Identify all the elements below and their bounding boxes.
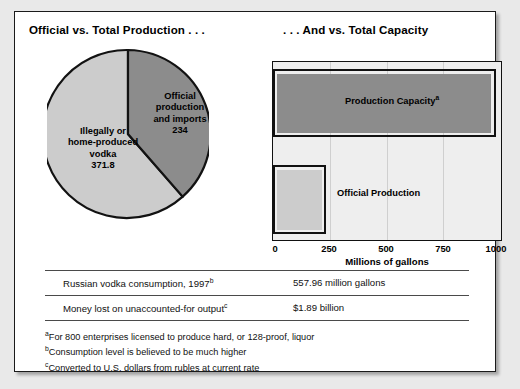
pie-chart: Illegally or home-produced vodka 371.8 O…	[47, 48, 209, 220]
bar-chart-plot-area: Production Capacitya Official Production	[272, 61, 502, 241]
summary-table: Russian vodka consumption, 1997b 557.96 …	[45, 270, 469, 321]
footnote-b-text: Consumption level is believed to be much…	[49, 347, 247, 357]
pie-label-official-line1: Official	[143, 91, 217, 102]
footnote-b: bConsumption level is believed to be muc…	[45, 343, 475, 358]
pie-label-illegal: Illegally or home-produced vodka 371.8	[51, 126, 155, 172]
footnote-mark-c: c	[224, 302, 227, 309]
bar-official-production	[273, 165, 327, 234]
footnote-c-text: Converted to U.S. dollars from rubles at…	[48, 363, 259, 373]
footnote-mark-a: a	[435, 94, 439, 101]
table-row-label-text: Money lost on unaccounted-for output	[63, 303, 224, 314]
footnote-c: cConverted to U.S. dollars from rubles a…	[45, 359, 475, 374]
pie-label-official-line2: production	[143, 102, 217, 113]
x-tick-1000: 1000	[486, 243, 507, 254]
pie-label-official: Official production and imports 234	[143, 91, 217, 137]
pie-value-illegal: 371.8	[51, 160, 155, 171]
table-row-label-text: Russian vodka consumption, 1997	[63, 278, 210, 289]
bar-official-production-fill	[277, 170, 322, 230]
bar-label-official-production: Official Production	[337, 188, 420, 198]
pie-value-official: 234	[143, 125, 217, 136]
x-tick-0: 0	[272, 243, 277, 254]
pie-label-illegal-line1: Illegally or	[51, 126, 155, 137]
table-row-value: $1.89 billion	[293, 302, 344, 313]
pie-chart-title: Official vs. Total Production . . .	[29, 23, 205, 36]
table-row-label: Money lost on unaccounted-for outputc	[63, 302, 227, 314]
pie-label-illegal-line3: vodka	[51, 149, 155, 160]
bar-chart-title: . . . And vs. Total Capacity	[283, 23, 428, 36]
table-row-value: 557.96 million gallons	[293, 277, 385, 288]
x-tick-750: 750	[435, 243, 451, 254]
table-row: Money lost on unaccounted-for outputc $1…	[45, 295, 469, 321]
footnote-a: aFor 800 enterprises licensed to produce…	[45, 328, 475, 343]
footnote-a-text: For 800 enterprises licensed to produce …	[49, 332, 315, 342]
footnote-mark-b: b	[210, 277, 214, 284]
bar-label-production-capacity: Production Capacitya	[345, 94, 439, 106]
figure-panel: Official vs. Total Production . . . . . …	[14, 11, 496, 372]
bar-chart-x-axis-ticks: 0 250 500 750 1000	[272, 243, 502, 256]
bar-chart-x-axis-label: Millions of gallons	[272, 256, 502, 267]
bar-label-production-capacity-text: Production Capacity	[345, 96, 435, 106]
x-tick-500: 500	[378, 243, 394, 254]
x-tick-250: 250	[321, 243, 337, 254]
figure-root: Official vs. Total Production . . . . . …	[0, 0, 520, 389]
table-row: Russian vodka consumption, 1997b 557.96 …	[45, 270, 469, 295]
pie-label-illegal-line2: home-produced	[51, 137, 155, 148]
pie-label-official-line3: and imports	[143, 114, 217, 125]
table-row-label: Russian vodka consumption, 1997b	[63, 277, 213, 289]
footnotes: aFor 800 enterprises licensed to produce…	[45, 328, 475, 374]
